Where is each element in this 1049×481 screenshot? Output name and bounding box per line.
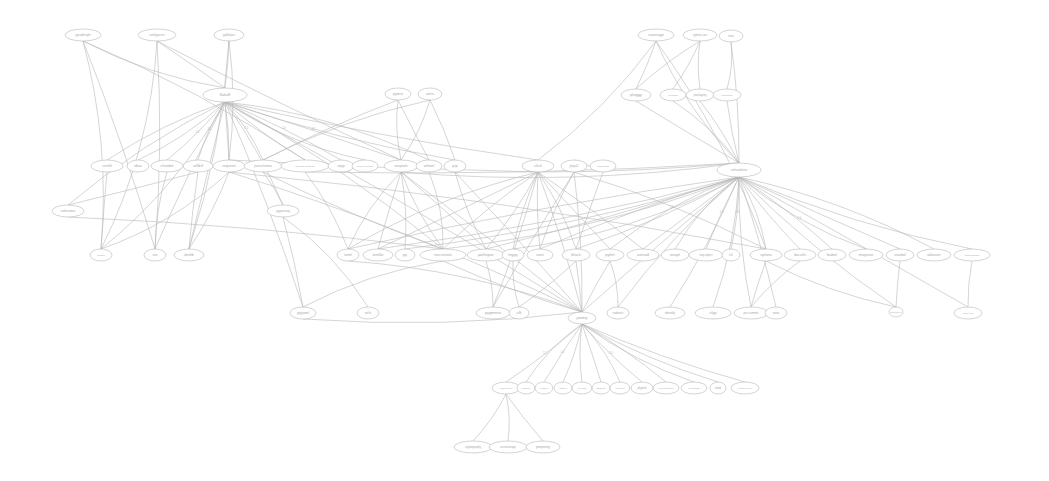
graph-node[interactable]: lazy-object [689, 249, 723, 261]
graph-node[interactable]: tomli [710, 382, 726, 394]
graph-node[interactable]: imagesize [849, 249, 883, 261]
graph-node[interactable]: pylint [596, 249, 624, 261]
graph-edge [582, 324, 694, 382]
graph-node[interactable]: toml [337, 249, 359, 261]
graph-node[interactable]: pytest-cov [683, 29, 717, 41]
node-label: flake8 [220, 92, 231, 97]
node-label: zipp [337, 163, 345, 168]
graph-node[interactable]: nox [765, 307, 787, 319]
graph-node[interactable]: isort [527, 249, 553, 261]
graph-node[interactable]: markupsafe [590, 160, 616, 172]
graph-node[interactable]: astroid [627, 249, 659, 261]
graph-edge [473, 394, 506, 441]
graph-node[interactable]: tomlkit [363, 249, 393, 261]
graph-node[interactable]: six [144, 249, 166, 261]
graph-node[interactable]: keyring [572, 382, 592, 394]
node-label: wheel [424, 163, 435, 168]
graph-node[interactable]: shellingham [681, 382, 707, 394]
graph-node[interactable]: pycodestyle [65, 29, 101, 41]
graph-node[interactable]: distlib [174, 249, 204, 261]
graph-node[interactable]: chardet [151, 160, 183, 172]
graph-node[interactable]: py [395, 249, 415, 261]
graph-node[interactable]: attrs [418, 88, 442, 100]
graph-node[interactable]: click [522, 160, 554, 172]
graph-node[interactable]: urllib3 [183, 160, 213, 172]
graph-node[interactable]: certifi [91, 160, 123, 172]
node-label: requests-toolbelt [658, 387, 674, 389]
graph-node[interactable]: babel [818, 249, 846, 261]
graph-node[interactable]: jeepney [526, 441, 560, 453]
graph-node[interactable]: secretstorage [489, 441, 527, 453]
graph-node[interactable]: jinja2 [561, 160, 587, 172]
node-label: tomlkit [373, 253, 385, 257]
graph-node[interactable]: typing-extensions [352, 160, 378, 172]
graph-node[interactable]: snowball [886, 249, 914, 261]
graph-node[interactable]: crashtest [517, 382, 535, 394]
graph-node[interactable]: cli [722, 249, 740, 261]
graph-node[interactable]: filelock [90, 249, 112, 261]
node-label: rich [365, 310, 371, 315]
graph-node[interactable]: pexpect [610, 382, 630, 394]
graph-node[interactable]: dulwich [535, 382, 553, 394]
graph-node[interactable]: importlib-metadata [281, 160, 329, 172]
graph-node[interactable]: pyyaml [290, 307, 316, 319]
graph-node[interactable]: docutils [784, 249, 816, 261]
graph-node[interactable]: pyflakes [214, 29, 244, 41]
graph-node[interactable]: requests-toolbelt [653, 382, 679, 394]
graph-node[interactable]: pathspec [467, 249, 505, 261]
graph-node[interactable]: nodeenv [607, 307, 629, 319]
graph-node[interactable]: black [562, 249, 590, 261]
graph-edge [83, 41, 225, 88]
graph-node[interactable]: pyparsing [267, 205, 299, 217]
graph-edge [636, 41, 700, 89]
node-label: cryptography [465, 445, 482, 449]
graph-node[interactable]: cffi [509, 307, 529, 319]
graph-node[interactable]: wheel [416, 160, 442, 172]
graph-node[interactable]: setuptools [384, 160, 418, 172]
graph-node[interactable]: cachecontrol [492, 382, 520, 394]
graph-edge [538, 172, 582, 312]
graph-node[interactable]: coverage [638, 29, 674, 41]
graph-node[interactable]: rich [357, 307, 379, 319]
graph-node[interactable]: virtualenv [717, 163, 761, 177]
graph-node[interactable]: pip [444, 160, 466, 172]
graph-node[interactable]: iniconfig [660, 89, 686, 101]
node-label: requests [222, 164, 236, 168]
node-label: configparser [149, 33, 164, 37]
graph-node[interactable]: distlib-extra [954, 307, 982, 319]
graph-node[interactable]: platformdirs [713, 89, 741, 101]
graph-node[interactable]: pkginfo [631, 382, 653, 394]
edge-label: 2.0 [196, 130, 200, 134]
graph-node[interactable]: configparser [138, 29, 176, 41]
graph-node[interactable]: pygments [476, 307, 510, 319]
graph-node[interactable]: packaging [686, 89, 714, 101]
graph-node[interactable]: alabaster [917, 249, 951, 261]
graph-node[interactable]: html5lib [554, 382, 572, 394]
graph-node[interactable]: mypy [502, 249, 524, 261]
graph-node[interactable]: cfgv [695, 307, 731, 319]
graph-node[interactable]: requests [213, 160, 245, 172]
graph-node[interactable]: idna [127, 160, 149, 172]
graph-node[interactable]: virtualenv-core [731, 382, 759, 394]
graph-node[interactable]: zipp [328, 160, 354, 172]
edge-label: 1.2 [207, 127, 211, 131]
graph-node[interactable]: flake8 [203, 88, 247, 102]
graph-node[interactable]: msgpack [592, 382, 610, 394]
graph-edge [378, 172, 401, 249]
graph-node[interactable]: argcomplete [889, 307, 903, 317]
graph-node[interactable]: pytest [385, 88, 411, 100]
graph-node[interactable]: jsonschema [244, 160, 282, 172]
graph-node[interactable]: pre-commit [734, 307, 768, 319]
graph-node[interactable]: sphinx [750, 249, 782, 261]
graph-node[interactable]: tox [719, 30, 743, 42]
graph-node[interactable]: more-itertools [420, 249, 466, 261]
graph-node[interactable]: cryptography [454, 441, 492, 453]
graph-edge [101, 172, 107, 249]
graph-node[interactable]: colorama [52, 205, 84, 217]
graph-node[interactable]: sphinxcontrib [954, 249, 990, 261]
graph-node[interactable]: pluggy [621, 89, 651, 101]
graph-node[interactable]: identify [655, 307, 685, 319]
graph-node[interactable]: poetry [568, 312, 596, 324]
node-label: platformdirs [722, 94, 733, 96]
graph-node[interactable]: wrapt [661, 249, 689, 261]
